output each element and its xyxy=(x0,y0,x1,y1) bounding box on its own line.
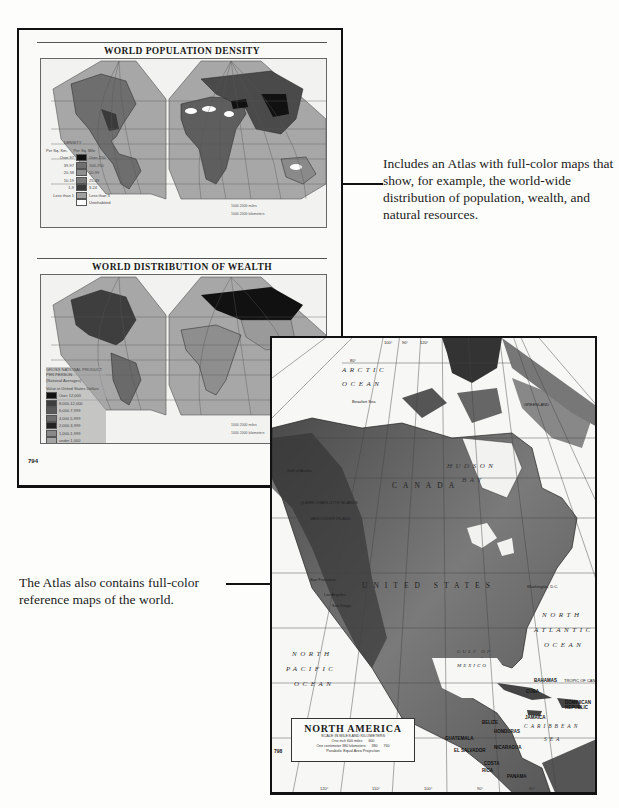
legend-swatch xyxy=(76,154,87,161)
country-label: RICA xyxy=(482,768,493,773)
place-label: GREENLAND xyxy=(524,402,549,407)
country-label: HONDURAS xyxy=(494,729,520,734)
place-label: Gulf of Alaska xyxy=(287,468,312,473)
map-title: NORTH AMERICA xyxy=(292,723,414,734)
country-label: NICARAGUA xyxy=(494,745,522,750)
wealth-map-title: WORLD DISTRIBUTION OF WEALTH xyxy=(37,262,327,272)
leader-line xyxy=(343,183,383,185)
population-density-section: WORLD POPULATION DENSITY xyxy=(37,42,327,228)
map-title-box: NORTH AMERICA SCALE IN MILES AND KILOMET… xyxy=(291,718,415,762)
page-number: 798 xyxy=(274,748,282,754)
longitude-label: 90° xyxy=(402,340,408,345)
ocean-label-arctic: OCEAN xyxy=(342,380,382,388)
longitude-label: 80° xyxy=(529,786,535,791)
legend-swatch xyxy=(46,422,57,429)
legend-row: Uninhabited xyxy=(46,199,119,207)
longitude-label: 110° xyxy=(372,786,380,791)
longitude-label: 90° xyxy=(477,786,483,791)
place-label: San Diego xyxy=(332,603,351,608)
ocean-label-pacific: OCEAN xyxy=(294,680,334,688)
legend-swatch xyxy=(76,192,87,199)
population-density-map: DENSITY Per Sq. Km. Per Sq. Mile Over 97… xyxy=(40,58,327,228)
gulf-label-mexico: MEXICO xyxy=(457,663,488,668)
legend-row: 6,000-7,999 xyxy=(46,407,106,415)
legend-row: Over 12,000 xyxy=(46,392,106,400)
sea-label-caribbean: SEA xyxy=(544,736,562,742)
legend-swatch xyxy=(46,430,57,437)
north-america-map-page: ARCTIC OCEAN HUDSON BAY NORTH PACIFIC OC… xyxy=(270,336,597,795)
gulf-label-mexico: GULF OF xyxy=(457,649,492,654)
legend-row: 4,000-5,999 xyxy=(46,415,106,423)
country-label: DOMINICAN REPUBLIC xyxy=(565,700,597,710)
country-label: BAHAMAS xyxy=(534,678,557,683)
legend-swatch xyxy=(46,400,57,407)
atlas-description-caption: Includes an Atlas with full-color maps t… xyxy=(383,155,618,223)
legend-row: 1-93-24 xyxy=(46,184,119,192)
legend-swatch xyxy=(46,415,57,422)
bay-label-hudson: HUDSON xyxy=(447,462,496,470)
longitude-label: 100° xyxy=(424,786,432,791)
country-label: PANAMA xyxy=(507,774,526,779)
scale-value: 760 xyxy=(383,744,389,749)
region-label-united-states: UNITED STATES xyxy=(362,581,496,590)
place-label: Beaufort Sea xyxy=(352,399,375,404)
population-legend: DENSITY Per Sq. Km. Per Sq. Mile Over 97… xyxy=(46,139,119,207)
legend-swatch xyxy=(46,407,57,414)
region-label-canada: CANADA xyxy=(392,481,460,490)
legend-swatch xyxy=(46,392,57,399)
reference-maps-caption: The Atlas also contains full-color refer… xyxy=(19,574,249,608)
scale-km: 1000 2000 kilometers xyxy=(231,431,264,435)
legend-row: 1,000-1,999 xyxy=(46,430,106,438)
legend-unit: Value in United States Dollars xyxy=(46,385,106,393)
country-label: GUATEMALA xyxy=(445,736,473,741)
legend-subtitle: (National Averages) xyxy=(46,377,106,385)
place-label: VANCOUVER ISLAND xyxy=(310,516,351,521)
latitude-label: 80° xyxy=(350,358,356,363)
sea-label-caribbean: CARIBBEAN xyxy=(524,723,580,729)
ocean-label-pacific: NORTH xyxy=(292,650,332,658)
longitude-label: 120° xyxy=(420,340,428,345)
legend-row: 2,000-3,999 xyxy=(46,422,106,430)
country-label: EL SALVADOR xyxy=(454,748,486,753)
country-label: BELIZE xyxy=(482,720,498,725)
legend-header-km: Per Sq. Km. xyxy=(46,147,68,155)
legend-row: 8,000-12,000 xyxy=(46,400,106,408)
legend-title: GROSS NATIONAL PRODUCT PER PERSON xyxy=(46,367,106,377)
longitude-label: 120° xyxy=(320,786,328,791)
ocean-label-atlantic: NORTH xyxy=(542,611,582,619)
legend-swatch xyxy=(46,437,57,444)
divider xyxy=(37,258,327,259)
ocean-label-pacific: PACIFIC xyxy=(286,665,336,673)
ocean-label-atlantic: ATLANTIC xyxy=(534,626,594,634)
divider xyxy=(37,42,327,43)
legend-row: 10-1925-49 xyxy=(46,177,119,185)
population-map-title: WORLD POPULATION DENSITY xyxy=(37,46,327,56)
country-label: CUBA xyxy=(526,689,539,694)
scale-miles: 1000 2000 miles xyxy=(231,423,257,427)
tropic-label: TROPIC OF CANCER xyxy=(564,678,597,683)
country-label: JAMAICA xyxy=(525,715,546,720)
place-label: Los Angeles xyxy=(324,592,346,597)
legend-swatch xyxy=(76,169,87,176)
legend-row: under 1,000 xyxy=(46,437,106,444)
longitude-label: 100° xyxy=(384,340,392,345)
legend-row: 20-3850-99 xyxy=(46,169,119,177)
scale-km: 1000 2000 kilometers xyxy=(231,212,264,216)
legend-title: DENSITY xyxy=(46,139,119,147)
country-label: COSTA xyxy=(484,761,499,766)
wealth-legend: GROSS NATIONAL PRODUCT PER PERSON (Natio… xyxy=(46,367,106,444)
legend-row: Over 97Over 250 xyxy=(46,154,119,162)
legend-swatch xyxy=(76,162,87,169)
ocean-label-arctic: ARCTIC xyxy=(342,366,387,374)
legend-row: 39-97100-250 xyxy=(46,162,119,170)
legend-swatch xyxy=(76,177,87,184)
page-number: 794 xyxy=(28,458,38,464)
ocean-label-atlantic: OCEAN xyxy=(544,641,584,649)
projection-note: Parabolic Equal Area Projection xyxy=(292,749,414,754)
place-label: Washington, D.C. xyxy=(527,584,558,589)
bay-label-hudson: BAY xyxy=(462,476,485,484)
place-label: QUEEN CHARLOTTE ISLANDS xyxy=(300,500,358,505)
legend-row: Less than 1Less than 3 xyxy=(46,192,119,200)
scale-miles: 1000 2000 miles xyxy=(231,204,257,208)
place-label: San Francisco xyxy=(310,577,336,582)
